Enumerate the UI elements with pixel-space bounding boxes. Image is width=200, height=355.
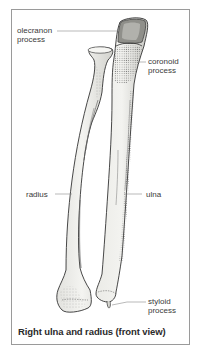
label-olecranon-process: olecranonprocess [17,26,52,44]
label-coronoid-process: coronoidprocess [148,57,179,75]
figure-caption: Right ulna and radius (front view) [18,326,166,337]
label-styloid-process: styloidprocess [148,297,176,315]
label-ulna: ulna [146,190,161,199]
label-radius: radius [26,190,48,199]
